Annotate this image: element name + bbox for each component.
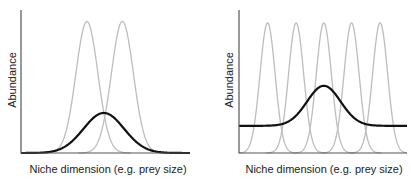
plot-area-right	[0, 0, 411, 184]
resource-curve	[239, 86, 407, 126]
y-axis-label: Abundance	[222, 40, 236, 120]
specialist-curve	[294, 23, 354, 153]
specialist-curve	[239, 23, 298, 153]
chart-panel-right: Abundance Niche dimension (e.g. prey siz…	[0, 0, 411, 184]
x-axis-label: Niche dimension (e.g. prey size)	[239, 163, 409, 175]
specialist-curve	[350, 23, 407, 153]
